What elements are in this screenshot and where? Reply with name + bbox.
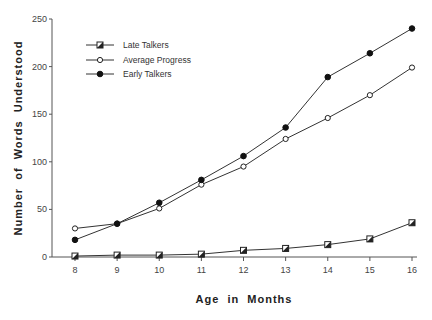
- y-tick-label: 100: [32, 157, 47, 167]
- x-tick-label: 14: [323, 265, 333, 275]
- filled-circle-marker: [114, 221, 120, 227]
- x-tick-label: 13: [281, 265, 291, 275]
- open-circle-marker: [97, 57, 102, 62]
- open-circle-marker: [241, 164, 246, 169]
- open-circle-marker: [367, 93, 372, 98]
- y-tick-label: 50: [37, 204, 47, 214]
- x-tick-label: 10: [154, 265, 164, 275]
- x-axis-title: Age in Months: [196, 293, 293, 305]
- x-tick-label: 9: [115, 265, 120, 275]
- legend: Late TalkersAverage ProgressEarly Talker…: [86, 40, 191, 79]
- legend-item: Average Progress: [86, 55, 191, 65]
- y-tick-label: 250: [32, 14, 47, 24]
- x-tick-label: 16: [407, 265, 417, 275]
- y-tick-label: 0: [42, 252, 47, 262]
- open-circle-marker: [325, 115, 330, 120]
- series-late-talkers: [72, 220, 415, 259]
- filled-circle-marker: [367, 50, 373, 56]
- x-tick-label: 15: [365, 265, 375, 275]
- filled-circle-marker: [97, 71, 103, 77]
- y-tick-label: 200: [32, 62, 47, 72]
- x-tick-label: 8: [72, 265, 77, 275]
- filled-circle-marker: [72, 237, 78, 243]
- legend-item: Early Talkers: [86, 69, 172, 79]
- filled-circle-marker: [325, 74, 331, 80]
- open-circle-marker: [157, 206, 162, 211]
- open-circle-marker: [283, 136, 288, 141]
- filled-circle-marker: [283, 125, 289, 131]
- series-line: [75, 68, 412, 229]
- axes: 0501001502002508910111213141516: [32, 14, 417, 275]
- legend-label: Late Talkers: [123, 40, 169, 50]
- y-tick-label: 150: [32, 109, 47, 119]
- x-tick-label: 12: [238, 265, 248, 275]
- filled-circle-marker: [409, 26, 415, 32]
- legend-label: Average Progress: [123, 55, 191, 65]
- filled-circle-marker: [156, 200, 162, 206]
- filled-circle-marker: [199, 177, 205, 183]
- legend-item: Late Talkers: [86, 40, 169, 50]
- open-circle-marker: [72, 226, 77, 231]
- x-tick-label: 11: [197, 265, 206, 275]
- series-average-progress: [72, 65, 414, 231]
- filled-circle-marker: [241, 153, 247, 159]
- line-chart: 0501001502002508910111213141516 Late Tal…: [0, 0, 432, 320]
- legend-label: Early Talkers: [123, 69, 172, 79]
- y-axis-title: Number of Words Understood: [12, 41, 24, 236]
- open-circle-marker: [409, 65, 414, 70]
